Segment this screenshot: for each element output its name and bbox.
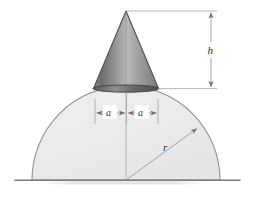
half-width-left-label: a: [106, 107, 111, 118]
geometry-diagram: r h a a: [0, 0, 254, 202]
figure-container: r h a a: [0, 0, 254, 202]
radius-label: r: [163, 141, 168, 153]
cone-base-ellipse: [93, 85, 159, 92]
ground-shadow: [24, 181, 224, 184]
half-width-right-label: a: [138, 107, 143, 118]
height-label: h: [208, 44, 214, 56]
